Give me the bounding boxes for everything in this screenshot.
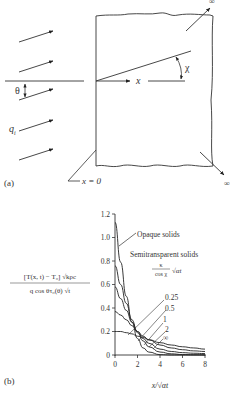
y-tick-label: 1.2	[101, 210, 111, 219]
y-tick-label: 1.0	[101, 233, 111, 242]
x-axis-label: x	[135, 75, 141, 86]
ray-arrow-icon	[19, 120, 53, 131]
ylabel-numerator: [T(x, t) − T₀] √kρc	[24, 273, 76, 281]
panel-b: 00.20.40.60.81.01.2 02468 Opaque solids …	[4, 210, 207, 391]
figure: θ qi x χ ∞ ∞ x = 0 (a) 00.20.40.60.81.01…	[0, 0, 244, 410]
infinity-bottom-label: ∞	[224, 179, 230, 188]
y-ticks: 00.20.40.60.81.01.2	[101, 210, 115, 360]
curve-label-infinity: ∞	[163, 333, 168, 342]
y-tick-label: 0.2	[101, 327, 111, 336]
y-tick-label: 0.6	[101, 280, 111, 289]
curve-opaque-solids-	[115, 222, 205, 355]
x-tick-label: 2	[136, 360, 140, 369]
slab-outline	[96, 13, 213, 167]
theta-label: θ	[15, 85, 20, 96]
x-tick-label: 4	[158, 360, 162, 369]
param-sqrt: √αt	[172, 267, 183, 275]
ray-arrow-icon	[19, 89, 53, 100]
chi-angle-arrow-icon	[176, 57, 181, 79]
y-tick-label: 0	[106, 351, 110, 360]
infinity-top-label: ∞	[209, 0, 215, 6]
x-tick-label: 8	[203, 360, 207, 369]
x-tick-label: 6	[181, 360, 185, 369]
panel-a: θ qi x χ ∞ ∞ x = 0 (a)	[4, 0, 230, 188]
semitransparent-solids-label: Semitransparent solids	[130, 250, 198, 259]
curve-label-0-5: 0.5	[165, 304, 175, 313]
curves	[115, 222, 205, 355]
param-numerator: κ	[159, 262, 162, 268]
curve-label-0-25: 0.25	[165, 293, 178, 302]
x-axis-title: x/√αt	[151, 381, 169, 390]
infinity-arrow-top-icon	[186, 8, 210, 31]
param-denominator: cos χ	[155, 271, 167, 277]
origin-label: x = 0	[81, 176, 102, 186]
ray-arrow-icon	[19, 61, 53, 72]
panel-a-label: (a)	[4, 178, 14, 188]
x-ticks: 02468	[113, 355, 207, 369]
y-tick-label: 0.8	[101, 257, 111, 266]
chi-label: χ	[184, 62, 190, 73]
curve-0-5	[115, 287, 205, 354]
panel-b-label: (b)	[4, 376, 15, 386]
ylabel-denominator: q cos θτ₀(θ) √t	[30, 287, 71, 295]
curve-label-1: 1	[163, 315, 167, 324]
x-tick-label: 0	[113, 360, 117, 369]
ray-arrow-icon	[19, 31, 53, 42]
flux-label: qi	[9, 123, 16, 136]
opaque-solids-label: Opaque solids	[137, 230, 180, 239]
incident-rays	[19, 31, 53, 160]
opaque-leader-line	[119, 233, 136, 246]
curve-0-25	[115, 266, 205, 355]
refracted-ray	[96, 51, 191, 81]
y-tick-label: 0.4	[101, 304, 111, 313]
ray-arrow-icon	[19, 149, 53, 160]
curve-1	[115, 312, 205, 352]
